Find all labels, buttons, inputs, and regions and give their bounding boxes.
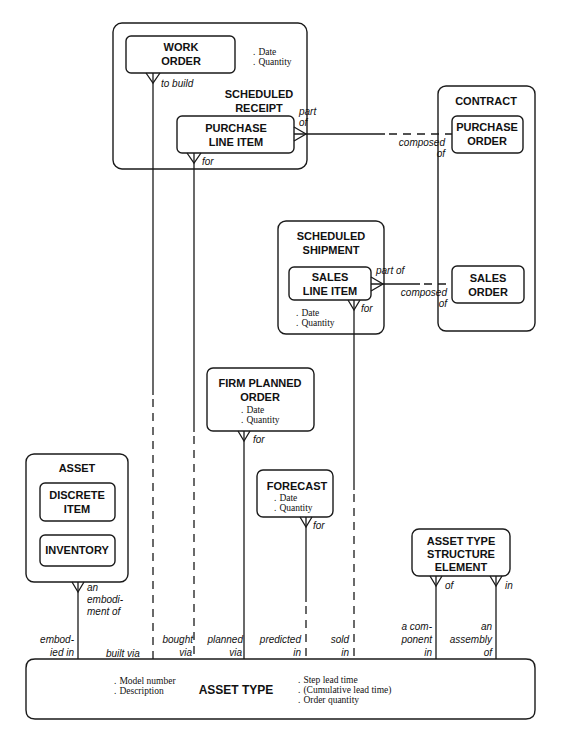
rel-work-order-built-via: to build built via (106, 73, 194, 659)
scheduled-receipt-attr-quantity: .Quantity (253, 57, 292, 67)
rel-firm-planned-order-planned-via: for planned via (206, 431, 265, 659)
label-part: part (298, 106, 317, 117)
scheduled-receipt-label-2: RECEIPT (235, 102, 283, 114)
label-sold-in: in (341, 647, 349, 658)
structure-element-label-3: ELEMENT (435, 561, 488, 573)
scheduled-shipment-attr-date: .Date (296, 308, 319, 318)
firm-planned-order-label-1: FIRM PLANNED (218, 377, 301, 389)
label-composed-of: of (437, 148, 447, 159)
sales-order-label-1: SALES (470, 272, 507, 284)
scheduled-receipt-label-1: SCHEDULED (225, 88, 294, 100)
entity-work-order[interactable]: WORK ORDER (126, 36, 235, 73)
label-to-build: to build (161, 78, 194, 89)
sales-order-label-2: ORDER (468, 286, 508, 298)
entity-discrete-item[interactable]: DISCRETE ITEM (40, 483, 115, 521)
purchase-line-item-label-2: LINE ITEM (209, 136, 263, 148)
structure-element-label-1: ASSET TYPE (427, 535, 495, 547)
entity-sales-line-item[interactable]: SALES LINE ITEM (289, 267, 371, 300)
label-sales-composed-of: of (439, 298, 449, 309)
asset-type-attr-description: .Description (114, 686, 164, 696)
label-planned-via: via (229, 647, 242, 658)
er-diagram: SCHEDULED RECEIPT .Date .Quantity WORK O… (0, 0, 567, 747)
label-bought-via: via (179, 647, 192, 658)
label-of-structure: of (445, 580, 455, 591)
label-ment-of: ment of (87, 606, 122, 617)
entity-asset[interactable]: ASSET (26, 454, 128, 582)
label-sales-part-of: part of (375, 265, 406, 276)
label-bought: bought (162, 634, 194, 645)
label-of: of (299, 117, 309, 128)
label-sales-composed: composed (401, 287, 448, 298)
sales-line-item-label-1: SALES (312, 271, 349, 283)
label-assembly: assembly (450, 634, 493, 645)
label-embod: embod- (40, 634, 75, 645)
entity-firm-planned-order[interactable]: FIRM PLANNED ORDER .Date .Quantity (207, 368, 314, 431)
scheduled-shipment-label-2: SHIPMENT (303, 244, 360, 256)
forecast-attr-date: .Date (274, 493, 297, 503)
label-predicted: predicted (259, 634, 302, 645)
scheduled-receipt-attr-date: .Date (253, 47, 276, 57)
label-a-com: a com- (401, 621, 432, 632)
sales-line-item-label-2: LINE ITEM (303, 285, 357, 297)
scheduled-shipment-attr-quantity: .Quantity (296, 318, 335, 328)
rel-structure-element-component-in: of a com- ponent in (400, 576, 454, 659)
entity-inventory[interactable]: INVENTORY (40, 535, 115, 566)
contract-label: CONTRACT (455, 95, 517, 107)
work-order-label-1: WORK (164, 41, 199, 53)
entity-asset-type-structure-element[interactable]: ASSET TYPE STRUCTURE ELEMENT (412, 529, 510, 576)
label-purchase-for: for (202, 156, 214, 167)
purchase-order-label-1: PURCHASE (456, 121, 518, 133)
purchase-line-item-label-1: PURCHASE (205, 122, 267, 134)
forecast-label: FORECAST (267, 480, 328, 492)
discrete-item-label-1: DISCRETE (49, 489, 105, 501)
label-planned: planned (206, 634, 243, 645)
rel-purchase-line-item-purchase-order: part of composed of (294, 106, 452, 159)
label-assembly-of: of (484, 647, 494, 658)
forecast-attr-quantity: .Quantity (274, 503, 313, 513)
asset-type-attr-model-number: .Model number (114, 676, 176, 686)
label-predicted-in: in (293, 647, 301, 658)
label-sales-for: for (361, 303, 373, 314)
discrete-item-label-2: ITEM (64, 503, 90, 515)
label-an-assembly: an (481, 621, 493, 632)
work-order-label-2: ORDER (161, 55, 201, 67)
firm-planned-order-attr-quantity: .Quantity (241, 415, 280, 425)
rel-forecast-predicted-in: for predicted in (259, 517, 325, 659)
label-sold: sold (331, 634, 350, 645)
rel-structure-element-assembly-of: in an assembly of (450, 576, 513, 659)
entity-asset-type[interactable]: ASSET TYPE .Model number .Description .S… (26, 659, 535, 719)
entity-sales-order[interactable]: SALES ORDER (452, 266, 524, 303)
asset-type-label: ASSET TYPE (199, 683, 274, 697)
asset-label: ASSET (59, 462, 96, 474)
label-built-via: built via (106, 648, 140, 659)
label-an: an (87, 582, 99, 593)
firm-planned-order-label-2: ORDER (240, 391, 280, 403)
label-embodi: embodi- (87, 594, 124, 605)
inventory-label: INVENTORY (45, 544, 109, 556)
label-forecast-for: for (313, 520, 325, 531)
label-fpo-for: for (253, 434, 265, 445)
label-composed: composed (399, 137, 446, 148)
entity-purchase-order[interactable]: PURCHASE ORDER (452, 116, 523, 153)
asset-type-attr-step-lead-time: .Step lead time (298, 675, 358, 685)
label-in-structure: in (505, 580, 513, 591)
structure-element-label-2: STRUCTURE (427, 548, 495, 560)
asset-type-attr-order-quantity: .Order quantity (298, 695, 359, 705)
purchase-order-label-2: ORDER (467, 135, 507, 147)
firm-planned-order-attr-date: .Date (241, 405, 264, 415)
entity-purchase-line-item[interactable]: PURCHASE LINE ITEM (177, 116, 294, 153)
scheduled-shipment-label-1: SCHEDULED (297, 230, 366, 242)
label-ponent: ponent (400, 634, 433, 645)
rel-sales-line-item-sales-order: part of composed of (371, 265, 452, 309)
label-ied-in: ied in (50, 647, 74, 658)
rel-sales-line-item-sold-in: for sold in (331, 300, 374, 659)
entity-forecast[interactable]: FORECAST .Date .Quantity (257, 470, 333, 517)
label-component-in: in (424, 647, 432, 658)
